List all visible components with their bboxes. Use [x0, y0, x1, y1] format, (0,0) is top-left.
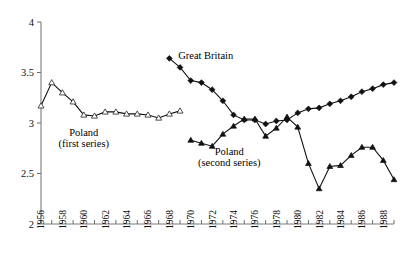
y-tick-label: 3 — [29, 118, 34, 129]
x-tick-label: 1982 — [315, 210, 325, 229]
x-tick-label: 1976 — [250, 210, 260, 229]
annotation-poland-second-2: (second series) — [198, 157, 261, 169]
y-tick-label: 4 — [29, 17, 35, 28]
x-tick-label: 1968 — [165, 210, 175, 229]
y-tick-label: 2.5 — [21, 168, 34, 179]
x-tick-label: 1966 — [143, 210, 153, 229]
y-tick-label: 3.5 — [21, 67, 34, 78]
x-tick-label: 1974 — [229, 210, 239, 229]
x-tick-label: 1958 — [58, 210, 68, 229]
x-tick-label: 1980 — [293, 210, 303, 229]
x-tick-label: 1988 — [379, 210, 389, 229]
annotation-poland-second-1: Poland — [215, 146, 245, 157]
x-tick-label: 1970 — [186, 210, 196, 229]
x-tick-label: 1956 — [36, 210, 46, 229]
line-chart: 22.533.54 195619581960196219641966196819… — [0, 0, 406, 268]
annotation-poland-first-1: Poland — [69, 127, 99, 138]
x-tick-label: 1986 — [357, 210, 367, 229]
y-tick-label: 2 — [29, 219, 34, 230]
annotation-poland-first-2: (first series) — [59, 138, 110, 150]
annotation-great-britain: Great Britain — [178, 50, 234, 61]
chart-container: 22.533.54 195619581960196219641966196819… — [0, 0, 406, 268]
x-tick-label: 1972 — [208, 210, 218, 229]
x-tick-label: 1964 — [122, 210, 132, 229]
x-tick-label: 1978 — [272, 210, 282, 229]
x-tick-label: 1960 — [79, 210, 89, 229]
x-tick-label: 1962 — [101, 210, 111, 229]
x-tick-label: 1984 — [336, 210, 346, 229]
